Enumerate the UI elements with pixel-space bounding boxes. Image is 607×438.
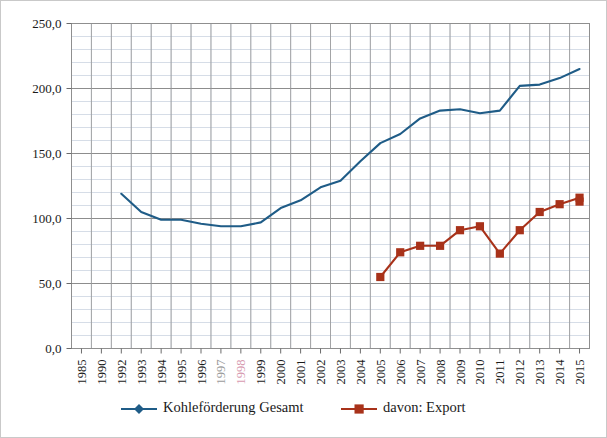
data-point-marker xyxy=(456,226,464,234)
x-tick-label: 2001 xyxy=(294,360,308,385)
x-tick-label: 2000 xyxy=(274,360,288,385)
data-point-marker xyxy=(396,248,404,256)
legend-marker xyxy=(355,404,364,413)
x-tick-label: 1999 xyxy=(254,360,268,385)
x-axis: 1985199019921993199419951996199719981999… xyxy=(75,349,587,385)
y-axis: 0,050,0100,0150,0200,0250,0 xyxy=(32,16,71,356)
chart-legend: Kohleförderung Gesamtdavon: Export xyxy=(121,399,466,415)
gridlines-major-vertical xyxy=(72,24,590,349)
data-point-marker xyxy=(416,242,424,250)
data-point-marker xyxy=(536,208,544,216)
x-tick-label: 2015 xyxy=(573,360,587,385)
y-tick-label: 250,0 xyxy=(32,16,61,31)
legend-label: davon: Export xyxy=(383,399,466,415)
legend-item-davon-export[interactable]: davon: Export xyxy=(341,399,466,415)
data-point-marker xyxy=(575,198,583,206)
data-point-marker xyxy=(496,250,504,258)
y-tick-label: 50,0 xyxy=(39,276,62,291)
x-tick-label: 2008 xyxy=(434,360,448,385)
chart-figure: 0,050,0100,0150,0200,0250,0 198519901992… xyxy=(0,0,607,438)
x-tick-label: 2009 xyxy=(454,360,468,385)
data-point-marker xyxy=(376,273,384,281)
x-tick-label: 2006 xyxy=(394,360,408,385)
x-tick-label: 2005 xyxy=(374,360,388,385)
x-tick-label: 2007 xyxy=(414,360,428,385)
x-tick-label: 1992 xyxy=(115,360,129,385)
y-tick-label: 150,0 xyxy=(32,146,61,161)
x-tick-label: 1996 xyxy=(195,360,209,385)
chart-canvas: 0,050,0100,0150,0200,0250,0 198519901992… xyxy=(1,1,607,438)
legend-item-kohlefoerderung-gesamt[interactable]: Kohleförderung Gesamt xyxy=(121,399,304,415)
x-tick-label: 1998 xyxy=(234,360,248,385)
x-tick-label: 1990 xyxy=(95,360,109,385)
x-tick-label: 2014 xyxy=(553,359,567,385)
legend-marker xyxy=(134,404,144,414)
data-point-marker xyxy=(476,222,484,230)
x-tick-label: 2003 xyxy=(334,360,348,385)
x-tick-label: 2011 xyxy=(493,360,507,385)
x-tick-label: 2010 xyxy=(473,360,487,385)
legend-label: Kohleförderung Gesamt xyxy=(163,399,304,415)
y-tick-label: 200,0 xyxy=(32,81,61,96)
x-tick-label: 1997 xyxy=(214,360,228,385)
x-tick-label: 1993 xyxy=(135,360,149,385)
data-point-marker xyxy=(556,200,564,208)
data-point-marker xyxy=(436,242,444,250)
x-tick-label: 2012 xyxy=(513,360,527,385)
x-tick-label: 1994 xyxy=(155,359,169,385)
x-tick-label: 2004 xyxy=(354,359,368,385)
x-tick-label: 2002 xyxy=(314,360,328,385)
data-point-marker xyxy=(516,226,524,234)
y-tick-label: 100,0 xyxy=(32,211,61,226)
x-tick-label: 1995 xyxy=(175,360,189,385)
series-davon-export xyxy=(376,194,583,282)
series-layer xyxy=(81,2,583,282)
y-tick-label: 0,0 xyxy=(45,341,61,356)
x-tick-label: 2013 xyxy=(533,360,547,385)
x-tick-label: 1985 xyxy=(75,360,89,385)
